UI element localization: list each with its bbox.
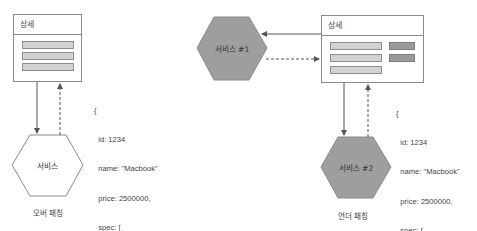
json-line: price: 2500000, [396,197,460,207]
detail-box-right: 상세 [321,15,424,83]
detail-box-title: 상세 [14,15,81,35]
data-field-bar [22,63,74,71]
json-line: name: "Macbook" [94,164,158,174]
json-response-left: { id: 1234 name: "Macbook" price: 250000… [94,86,158,231]
json-line: spec: [ [396,226,460,231]
json-line: price: 2500000, [94,194,158,204]
json-line: id: 1234 [94,135,158,145]
service-label-left: 서비스 [7,160,87,171]
data-field-bar [22,52,74,60]
json-line: id: 1234 [396,138,460,148]
data-field-bar-secondary [389,54,415,62]
caption-over-fetching: 오버 패칭 [8,207,88,218]
json-response-right: { id: 1234 name: "Macbook" price: 250000… [396,89,460,231]
json-line: name: "Macbook" [396,167,460,177]
data-field-bar [330,54,382,62]
caption-under-fetching: 언더 패칭 [313,210,393,221]
data-field-bar [330,42,382,50]
detail-box-left: 상세 [13,14,82,82]
data-field-bar [330,66,382,74]
json-line: { [94,106,158,116]
data-field-bar-secondary [389,42,415,50]
service-1-label: 서비스 #1 [192,43,272,54]
service-2-label: 서비스 #2 [316,162,396,173]
json-line: { [396,109,460,119]
detail-box-title: 상세 [322,16,423,36]
data-field-bar [22,41,74,49]
json-line: spec: [ [94,223,158,231]
